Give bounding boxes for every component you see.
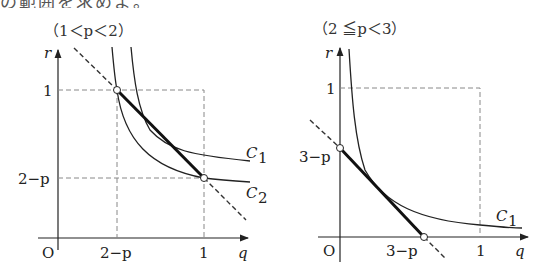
line-extension-bottom xyxy=(204,178,246,220)
y-tick-3-minus-p: 3−p xyxy=(299,148,331,166)
right-graph-title: （2 ≦p＜3） xyxy=(313,20,406,38)
svg-text:1: 1 xyxy=(508,212,518,230)
left-graph: （1＜p＜2） r q O 1 2−p 2−p 1 C 1 xyxy=(18,22,268,262)
origin-label: O xyxy=(42,244,54,262)
thick-segment xyxy=(117,90,204,178)
svg-text:2: 2 xyxy=(258,189,268,207)
y-tick-1: 1 xyxy=(326,80,336,98)
origin-label: O xyxy=(323,242,335,260)
svg-text:C: C xyxy=(246,144,258,162)
curve-c1 xyxy=(131,47,250,161)
endpoint-open-bottom xyxy=(201,175,208,182)
x-tick-3-minus-p: 3−p xyxy=(386,242,418,260)
right-graph: （2 ≦p＜3） r q O 1 3−p 3−p 1 C 1 xyxy=(299,20,528,262)
curve-c1 xyxy=(349,49,522,228)
endpoint-open-bottom xyxy=(421,234,428,241)
left-graph-title: （1＜p＜2） xyxy=(44,22,133,40)
q-axis-label: q xyxy=(515,242,525,260)
endpoint-open-top xyxy=(337,145,344,152)
svg-text:C: C xyxy=(496,207,508,225)
guide-lines xyxy=(58,90,204,238)
y-tick-1: 1 xyxy=(43,82,53,100)
curve-label-c2: C 2 xyxy=(246,184,268,207)
x-tick-2-minus-p: 2−p xyxy=(100,244,132,262)
line-extension-bottom xyxy=(424,237,446,259)
curve-label-c1: C 1 xyxy=(246,144,268,167)
r-axis-label: r xyxy=(325,44,333,62)
x-tick-1: 1 xyxy=(199,244,209,262)
thick-segment xyxy=(340,148,424,237)
y-tick-2-minus-p: 2−p xyxy=(18,170,50,188)
diagram-canvas: （1＜p＜2） r q O 1 2−p 2−p 1 C 1 xyxy=(0,0,535,275)
r-axis-label: r xyxy=(44,44,52,62)
guide-lines xyxy=(340,88,480,237)
endpoint-open-top xyxy=(114,87,121,94)
svg-text:1: 1 xyxy=(258,149,268,167)
line-extension-top xyxy=(74,48,117,90)
line-extension-top xyxy=(310,120,340,148)
x-tick-1: 1 xyxy=(476,242,486,260)
q-axis-label: q xyxy=(238,244,248,262)
svg-text:C: C xyxy=(246,184,258,202)
